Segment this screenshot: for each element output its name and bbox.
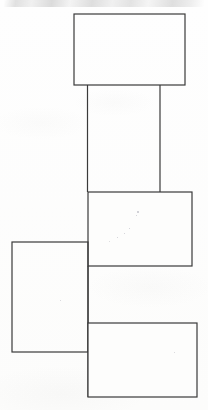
scanned-page [0, 0, 208, 410]
diagram-canvas [0, 0, 208, 410]
middle-rectangle [88, 192, 192, 266]
left-rectangle [12, 242, 88, 352]
bottom-rectangle [88, 323, 197, 397]
top-rectangle [74, 14, 185, 85]
shape-layer [12, 14, 197, 397]
